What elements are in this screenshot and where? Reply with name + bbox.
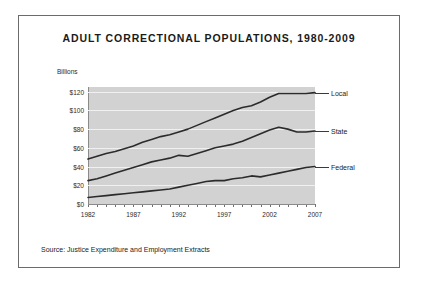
y-axis-tick-label: $80: [73, 126, 84, 133]
plot-wrap: $0$20$40$60$80$100$120 19821987199219972…: [88, 87, 315, 204]
x-axis-tick-label: 1982: [81, 211, 95, 218]
x-axis-minor-tick: [315, 204, 316, 207]
y-axis-tick-label: $40: [73, 163, 84, 170]
source-note: Source: Justice Expenditure and Employme…: [41, 246, 210, 253]
x-axis-tick-label: 1997: [217, 211, 231, 218]
series-leader-line-federal: [315, 167, 329, 168]
y-axis-tick-label: $60: [73, 144, 84, 151]
x-axis-tick-label: 2002: [262, 211, 276, 218]
page-title: ADULT CORRECTIONAL POPULATIONS, 1980-200…: [19, 32, 399, 44]
y-axis-unit-label: Billions: [57, 68, 78, 75]
series-label-state: State: [331, 127, 347, 134]
chart-lines: [88, 87, 315, 204]
y-axis-tick-label: $20: [73, 182, 84, 189]
y-axis-tick-label: $100: [70, 107, 84, 114]
figure-frame: ADULT CORRECTIONAL POPULATIONS, 1980-200…: [18, 15, 400, 268]
series-leader-line-state: [315, 131, 329, 132]
x-axis-tick-label: 2007: [308, 211, 322, 218]
series-label-local: Local: [331, 89, 348, 96]
series-label-federal: Federal: [331, 163, 355, 170]
x-axis-tick-label: 1987: [126, 211, 140, 218]
x-axis-line: [88, 204, 315, 205]
y-axis-tick-label: $120: [70, 88, 84, 95]
series-line-local: [88, 93, 315, 159]
x-axis-tick-label: 1992: [172, 211, 186, 218]
series-leader-line-local: [315, 93, 329, 94]
y-axis-tick-label: $0: [77, 201, 84, 208]
